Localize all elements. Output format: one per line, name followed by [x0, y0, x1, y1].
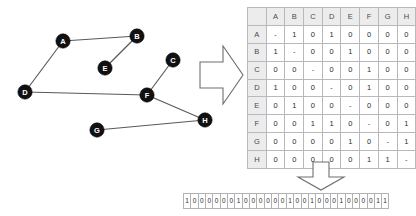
matrix-cell-b-g: 0 — [378, 43, 397, 61]
graph-edge-layer — [25, 36, 205, 130]
bit-cell: 0 — [352, 193, 359, 209]
matrix-cell-b-b: - — [285, 43, 304, 61]
matrix-cell-b-f: 0 — [360, 43, 379, 61]
matrix-row: F00110-01 — [248, 115, 416, 133]
matrix-row: E0100-000 — [248, 97, 416, 115]
matrix-cell-a-f: 0 — [360, 25, 379, 43]
matrix-col-header-f: F — [360, 8, 379, 26]
matrix-cell-g-a: 0 — [266, 133, 285, 151]
bit-cell: 0 — [264, 193, 271, 209]
matrix-cell-d-h: 0 — [397, 79, 416, 97]
matrix-cell-f-c: 1 — [304, 115, 323, 133]
matrix-cell-g-g: - — [378, 133, 397, 151]
matrix-cell-d-e: 0 — [341, 79, 360, 97]
matrix-cell-g-e: 1 — [341, 133, 360, 151]
bit-cell: 0 — [190, 193, 197, 209]
matrix-row-header-b: B — [248, 43, 267, 61]
matrix-cell-f-g: 0 — [378, 115, 397, 133]
matrix-cell-c-d: 0 — [322, 61, 341, 79]
matrix-cell-d-a: 1 — [266, 79, 285, 97]
graph-edge-g-h — [97, 120, 205, 130]
matrix-row-header-f: F — [248, 115, 267, 133]
matrix-cell-f-h: 1 — [397, 115, 416, 133]
graph-node-label: B — [134, 32, 140, 41]
matrix-cell-a-e: 0 — [341, 25, 360, 43]
bit-cell: 0 — [212, 193, 219, 209]
bit-cell: 0 — [315, 193, 322, 209]
matrix-cell-d-d: - — [322, 79, 341, 97]
block-arrow-down-icon — [292, 160, 350, 192]
matrix-row-header-e: E — [248, 97, 267, 115]
bit-cell: 1 — [374, 193, 381, 209]
bit-cell: 1 — [234, 193, 241, 209]
matrix-cell-f-e: 0 — [341, 115, 360, 133]
matrix-cell-d-b: 0 — [285, 79, 304, 97]
matrix-cell-e-b: 1 — [285, 97, 304, 115]
matrix-col-header-g: G — [378, 8, 397, 26]
matrix-cell-c-h: 0 — [397, 61, 416, 79]
matrix-cell-b-c: 0 — [304, 43, 323, 61]
bitstring-container: 1000000100000010010001000011 — [183, 193, 389, 211]
matrix-cell-c-b: 0 — [285, 61, 304, 79]
arrow-down-container — [292, 160, 350, 192]
matrix-col-header-d: D — [322, 8, 341, 26]
matrix-cell-c-g: 0 — [378, 61, 397, 79]
graph-node-f[interactable]: F — [140, 88, 154, 102]
graph-node-g[interactable]: G — [90, 123, 104, 137]
matrix-cell-d-c: 0 — [304, 79, 323, 97]
graph-node-c[interactable]: C — [166, 53, 180, 67]
matrix-cell-a-d: 1 — [322, 25, 341, 43]
graph-node-label: A — [60, 37, 66, 46]
matrix-cell-c-c: - — [304, 61, 323, 79]
matrix-col-header-h: H — [397, 8, 416, 26]
matrix-header-row: ABCDEFGH — [248, 8, 416, 26]
graph-node-a[interactable]: A — [56, 34, 70, 48]
bit-cell: 0 — [323, 193, 330, 209]
matrix-col-header-a: A — [266, 8, 285, 26]
graph-node-label: E — [102, 64, 107, 73]
graph-node-label: F — [145, 91, 150, 100]
graph-node-e[interactable]: E — [98, 61, 112, 75]
graph-node-label: D — [22, 88, 28, 97]
bit-cell: 0 — [249, 193, 256, 209]
bit-cell: 1 — [308, 193, 315, 209]
matrix-col-header-c: C — [304, 8, 323, 26]
bit-cell: 1 — [381, 193, 388, 209]
matrix-cell-f-f: - — [360, 115, 379, 133]
graph-node-b[interactable]: B — [130, 29, 144, 43]
matrix-cell-b-e: 1 — [341, 43, 360, 61]
bit-cell: 0 — [220, 193, 227, 209]
matrix-cell-f-a: 0 — [266, 115, 285, 133]
matrix-row: C00-00100 — [248, 61, 416, 79]
matrix-cell-f-d: 1 — [322, 115, 341, 133]
matrix-row-header-h: H — [248, 151, 267, 169]
matrix-cell-h-g: 1 — [378, 151, 397, 169]
graph-node-h[interactable]: H — [198, 113, 212, 127]
matrix-cell-g-d: 0 — [322, 133, 341, 151]
matrix-cell-e-c: 0 — [304, 97, 323, 115]
matrix-row: B1-001000 — [248, 43, 416, 61]
matrix-row: D100-0100 — [248, 79, 416, 97]
matrix-row-header-g: G — [248, 133, 267, 151]
graph-node-d[interactable]: D — [18, 85, 32, 99]
bit-cell: 0 — [345, 193, 352, 209]
matrix-cell-e-d: 0 — [322, 97, 341, 115]
matrix-cell-a-h: 0 — [397, 25, 416, 43]
bit-cell: 0 — [198, 193, 205, 209]
adjacency-matrix-table: ABCDEFGH A-1010000B1-001000C00-00100D100… — [247, 7, 416, 169]
matrix-row-header-a: A — [248, 25, 267, 43]
matrix-cell-f-b: 0 — [285, 115, 304, 133]
matrix-cell-h-f: 1 — [360, 151, 379, 169]
matrix-cell-e-h: 0 — [397, 97, 416, 115]
matrix-cell-a-a: - — [266, 25, 285, 43]
adjacency-matrix-container: ABCDEFGH A-1010000B1-001000C00-00100D100… — [247, 7, 407, 159]
matrix-row-header-d: D — [248, 79, 267, 97]
bit-cell: 1 — [286, 193, 293, 209]
matrix-cell-d-g: 0 — [378, 79, 397, 97]
matrix-cell-d-f: 1 — [360, 79, 379, 97]
matrix-cell-e-f: 0 — [360, 97, 379, 115]
matrix-cell-a-b: 1 — [285, 25, 304, 43]
bit-cell: 0 — [330, 193, 337, 209]
matrix-col-header-e: E — [341, 8, 360, 26]
matrix-cell-g-h: 1 — [397, 133, 416, 151]
